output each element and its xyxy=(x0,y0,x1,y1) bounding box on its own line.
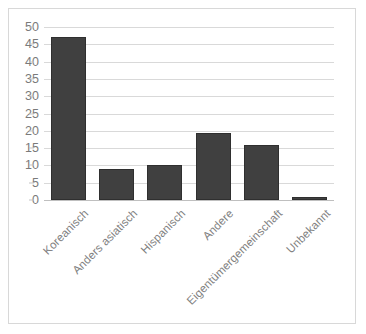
y-axis-tick-mark xyxy=(29,165,34,166)
y-axis-tick-mark xyxy=(29,130,34,131)
x-axis-category-label: Unbekannt xyxy=(284,207,332,255)
bar xyxy=(196,133,231,200)
y-axis-tick-mark xyxy=(29,200,34,201)
y-axis-tick-mark xyxy=(29,148,34,149)
y-axis-tick-labels: 05101520253035404550 xyxy=(14,27,39,201)
plot-area xyxy=(44,27,334,201)
bar xyxy=(244,145,279,200)
bar xyxy=(147,165,182,200)
y-axis-tick-mark xyxy=(29,78,34,79)
gridline xyxy=(44,114,334,115)
gridline xyxy=(44,62,334,63)
x-axis-category-label: Koreanisch xyxy=(41,207,91,257)
y-axis-tick-mark xyxy=(29,182,34,183)
gridline xyxy=(44,44,334,45)
gridline xyxy=(44,148,334,149)
bar xyxy=(51,37,86,200)
gridline xyxy=(44,79,334,80)
x-axis-category-labels: KoreanischAnders asiatischHispanischAnde… xyxy=(44,201,334,321)
gridline xyxy=(44,27,334,28)
y-axis-tick-mark xyxy=(29,96,34,97)
gridline xyxy=(44,183,334,184)
bar xyxy=(292,197,327,200)
x-axis-category-label: Andere xyxy=(201,207,236,242)
y-axis-tick-mark xyxy=(29,113,34,114)
x-axis-category-label: Hispanisch xyxy=(138,207,187,256)
bar xyxy=(99,169,134,200)
y-axis-tick-mark xyxy=(29,27,34,28)
gridline xyxy=(44,96,334,97)
y-axis-tick-mark xyxy=(29,44,34,45)
y-axis-tick-mark xyxy=(29,61,34,62)
bar-chart-figure: 05101520253035404550 KoreanischAnders as… xyxy=(0,0,366,334)
x-axis-category-label: Eigentümergemeinschaft xyxy=(184,207,284,307)
gridline xyxy=(44,165,334,166)
gridline xyxy=(44,131,334,132)
